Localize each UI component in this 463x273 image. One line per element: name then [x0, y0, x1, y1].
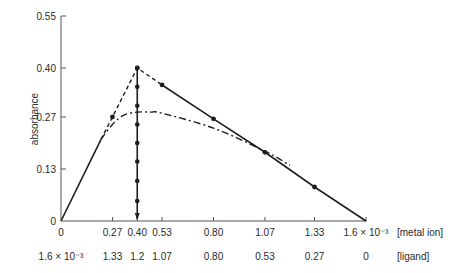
x-tick-label-metal: 0: [58, 227, 64, 238]
vertical-marker-point: [135, 199, 140, 204]
tick-labels: 00.130.270.400.5501.6 × 10⁻³0.271.330.40…: [29, 11, 443, 263]
x-tick-label-metal: 0.40: [128, 227, 148, 238]
y-tick-label: 0.55: [37, 11, 57, 22]
arrow-down-icon: [135, 213, 140, 220]
data-point: [211, 116, 216, 121]
data-point: [263, 150, 268, 155]
x-tick-label-ligand: 1.07: [152, 251, 172, 262]
solid-line: [61, 139, 101, 221]
y-axis-title: absorbance: [29, 92, 40, 145]
vertical-marker-point: [135, 141, 140, 146]
x-tick-label-ligand: 1.6 × 10⁻³: [39, 251, 84, 262]
x-tick-label-metal: 1.07: [255, 227, 275, 238]
x-tick-label-metal: 0.53: [152, 227, 172, 238]
data-points: [110, 66, 317, 204]
x-axis-title-metal: [metal ion]: [397, 227, 443, 238]
x-tick-label-metal: 0.80: [204, 227, 224, 238]
x-tick-label-ligand: 0.27: [305, 251, 325, 262]
y-tick-label: 0: [50, 216, 56, 227]
x-tick-label-metal: 1.33: [305, 227, 325, 238]
x-tick-label-ligand: 0.80: [204, 251, 224, 262]
vertical-marker-point: [135, 85, 140, 90]
dashed-line: [101, 68, 162, 139]
y-tick-label: 0.13: [37, 164, 57, 175]
data-point: [110, 115, 115, 120]
vertical-marker-point: [135, 179, 140, 184]
data-point: [312, 185, 317, 190]
vertical-marker-point: [135, 159, 140, 164]
vertical-marker-point: [135, 122, 140, 127]
x-tick-label-metal: 1.6 × 10⁻³: [344, 227, 389, 238]
x-tick-label-ligand: 0: [363, 251, 369, 262]
x-tick-label-ligand: 0.53: [255, 251, 275, 262]
x-tick-label-ligand: 1.2: [130, 251, 144, 262]
vertical-marker-point: [135, 103, 140, 108]
data-point: [135, 66, 140, 71]
y-tick-label: 0.40: [37, 63, 57, 74]
dash-dot-line: [101, 112, 290, 166]
job-plot-chart: 00.130.270.400.5501.6 × 10⁻³0.271.330.40…: [0, 0, 463, 273]
x-axis-title-ligand: [ligand]: [397, 251, 429, 262]
x-tick-label-metal: 0.27: [103, 227, 123, 238]
data-point: [160, 83, 165, 88]
x-tick-label-ligand: 1.33: [103, 251, 123, 262]
series-lines: [61, 68, 366, 221]
